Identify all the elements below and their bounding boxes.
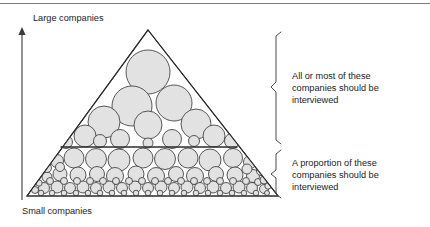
company-circle bbox=[100, 178, 107, 185]
sampling-pyramid-diagram: Large companies Small companies All or m… bbox=[0, 0, 430, 227]
company-circle bbox=[38, 190, 44, 196]
company-circle bbox=[56, 163, 65, 172]
company-circle bbox=[169, 190, 175, 196]
company-circle bbox=[265, 191, 270, 196]
company-circle bbox=[145, 190, 151, 196]
company-circle bbox=[61, 190, 67, 196]
company-circle bbox=[64, 148, 84, 168]
company-circle bbox=[85, 190, 91, 196]
company-circle bbox=[133, 148, 153, 168]
company-circle bbox=[181, 190, 187, 196]
axis-label-large: Large companies bbox=[33, 13, 104, 23]
company-circle bbox=[49, 190, 55, 196]
company-circle bbox=[155, 149, 176, 170]
company-circle bbox=[189, 136, 200, 147]
annotation-upper-line-3: interviewed bbox=[292, 95, 338, 105]
company-circle bbox=[61, 178, 68, 185]
annotation-lower-line-3: interviewed bbox=[292, 182, 338, 192]
company-circle bbox=[94, 135, 107, 148]
bracket-upper bbox=[271, 32, 281, 144]
company-circle bbox=[157, 190, 163, 196]
company-circle bbox=[229, 190, 235, 196]
company-circle bbox=[113, 178, 120, 185]
annotation-lower: A proportion of these companies should b… bbox=[292, 158, 379, 192]
company-circle bbox=[47, 178, 54, 185]
annotation-lower-line-1: A proportion of these bbox=[292, 158, 377, 168]
company-circle bbox=[253, 190, 259, 196]
company-circle bbox=[152, 178, 159, 185]
company-circle bbox=[97, 190, 103, 196]
company-circle bbox=[241, 190, 247, 196]
company-circle bbox=[193, 190, 199, 196]
axis-label-small: Small companies bbox=[22, 206, 92, 216]
company-circle bbox=[178, 178, 185, 185]
company-circle bbox=[178, 148, 198, 168]
company-circle bbox=[225, 134, 240, 149]
company-circle bbox=[217, 190, 223, 196]
annotation-lower-line-2: companies should be bbox=[292, 170, 379, 180]
company-circle bbox=[109, 190, 115, 196]
company-circle bbox=[74, 125, 96, 147]
vertical-axis bbox=[18, 27, 25, 200]
company-circle bbox=[139, 178, 146, 185]
company-circle bbox=[205, 190, 211, 196]
company-circle bbox=[74, 178, 81, 185]
company-circle bbox=[134, 111, 162, 139]
company-circle bbox=[73, 190, 79, 196]
company-circle bbox=[126, 178, 133, 185]
company-circle bbox=[111, 130, 130, 149]
company-circle bbox=[224, 149, 243, 168]
annotation-upper-line-1: All or most of these bbox=[292, 71, 371, 81]
annotation-upper-line-2: companies should be bbox=[292, 83, 379, 93]
bracket-lower bbox=[271, 150, 281, 198]
company-circle bbox=[242, 164, 252, 174]
company-circle bbox=[87, 178, 94, 185]
company-circles-group bbox=[32, 50, 272, 196]
company-circle bbox=[133, 190, 139, 196]
company-circle bbox=[108, 149, 130, 171]
company-circle bbox=[191, 178, 198, 185]
company-circle bbox=[230, 178, 237, 185]
company-circle bbox=[163, 130, 182, 149]
company-circle bbox=[121, 190, 127, 196]
axis-arrow-icon bbox=[18, 27, 25, 35]
company-circle bbox=[165, 178, 172, 185]
company-circle bbox=[217, 178, 224, 185]
company-circle bbox=[243, 178, 250, 185]
company-circle bbox=[203, 125, 225, 147]
annotation-upper: All or most of these companies should be… bbox=[292, 71, 379, 105]
company-circle bbox=[204, 178, 211, 185]
